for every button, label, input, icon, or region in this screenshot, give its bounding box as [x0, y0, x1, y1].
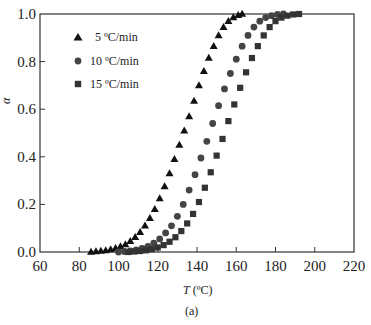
y-tick-label: 1.0 [17, 6, 36, 22]
data-point [137, 248, 143, 254]
x-axis-label-unit: (ºC) [190, 283, 213, 297]
data-point [190, 211, 196, 217]
data-point [185, 112, 193, 119]
data-point [192, 171, 199, 178]
x-tick-label: 60 [33, 258, 48, 274]
data-series [87, 10, 302, 256]
data-point [151, 205, 159, 212]
legend-item-5: 5 ºC/min [74, 30, 138, 44]
data-point [170, 155, 178, 162]
data-point [161, 242, 167, 248]
y-axis-label: α [0, 97, 13, 104]
data-point [146, 214, 154, 221]
data-point [243, 69, 249, 75]
data-point [131, 248, 137, 254]
data-point [239, 43, 246, 50]
data-point [115, 249, 122, 256]
x-tick-label: 140 [186, 258, 209, 274]
data-point [237, 85, 243, 91]
data-point [205, 54, 213, 61]
y-axis-ticks: 0.00.20.40.60.81.0 [17, 6, 45, 260]
y-tick-label: 0.4 [17, 149, 36, 165]
data-point [219, 136, 225, 142]
data-point [180, 201, 187, 208]
circle-marker-icon [75, 58, 82, 65]
x-axis-ticks: 6080100120140160180200220 [33, 247, 366, 274]
data-point [209, 120, 216, 127]
series-triangle [87, 10, 246, 255]
data-point [156, 194, 164, 201]
legend-label-5: 5 ºC/min [95, 30, 138, 44]
data-point [172, 234, 178, 240]
data-point [202, 185, 208, 191]
data-point [196, 199, 202, 205]
legend-item-15: 15 ºC/min [75, 77, 139, 91]
x-axis-label: T (ºC) [183, 283, 212, 297]
x-tick-label: 100 [107, 258, 130, 274]
data-point [284, 13, 290, 19]
data-point [143, 247, 149, 253]
data-point [233, 56, 240, 63]
data-point [200, 67, 208, 74]
data-point [166, 239, 172, 245]
data-point [198, 155, 205, 162]
data-point [245, 32, 252, 39]
data-point [296, 11, 302, 17]
data-point [261, 32, 267, 38]
data-point [155, 244, 161, 250]
square-marker-icon [75, 81, 81, 87]
data-point [162, 230, 169, 237]
data-point [174, 213, 181, 220]
data-point [195, 81, 203, 88]
data-point [215, 102, 222, 109]
data-point [227, 70, 234, 77]
plot-frame [40, 14, 354, 252]
y-tick-label: 0.0 [17, 244, 36, 260]
data-point [256, 18, 263, 25]
data-point [125, 249, 131, 255]
data-point [210, 42, 218, 49]
chart: 6080100120140160180200220 0.00.20.40.60.… [0, 0, 371, 325]
data-point [290, 11, 296, 17]
data-point [141, 222, 149, 229]
data-point [184, 220, 190, 226]
x-tick-label: 200 [304, 258, 327, 274]
x-tick-label: 180 [264, 258, 287, 274]
data-point [267, 24, 273, 30]
data-point [214, 153, 220, 159]
data-point [168, 222, 175, 229]
y-tick-label: 0.2 [17, 196, 36, 212]
data-point [208, 169, 214, 175]
series-circle [115, 11, 287, 256]
data-point [278, 14, 284, 20]
triangle-marker-icon [74, 33, 83, 41]
legend-item-10: 10 ºC/min [75, 54, 139, 68]
legend-label-15: 15 ºC/min [90, 77, 139, 91]
x-tick-label: 160 [225, 258, 248, 274]
data-point [190, 97, 198, 104]
data-point [221, 86, 228, 93]
legend: 5 ºC/min 10 ºC/min 15 ºC/min [74, 30, 139, 91]
data-point [249, 55, 255, 61]
data-point [251, 24, 258, 31]
legend-label-10: 10 ºC/min [90, 54, 139, 68]
data-point [225, 118, 231, 124]
data-point [262, 14, 269, 21]
data-point [255, 43, 261, 49]
data-point [186, 187, 193, 194]
data-point [178, 228, 184, 234]
data-point [149, 246, 155, 252]
data-point [161, 182, 169, 189]
y-tick-label: 0.6 [17, 101, 36, 117]
x-tick-label: 120 [147, 258, 170, 274]
data-point [231, 101, 237, 107]
data-point [272, 18, 278, 24]
data-point [180, 126, 188, 133]
data-point [215, 31, 223, 38]
y-tick-label: 0.8 [17, 54, 36, 70]
data-point [203, 138, 210, 145]
data-point [136, 228, 144, 235]
x-tick-label: 80 [72, 258, 87, 274]
x-tick-label: 220 [343, 258, 366, 274]
data-point [175, 141, 183, 148]
